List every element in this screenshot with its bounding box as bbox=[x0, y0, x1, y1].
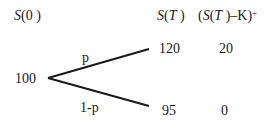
up-value: 120 bbox=[159, 41, 180, 57]
down-value: 95 bbox=[162, 103, 176, 119]
header-st: S(T ) bbox=[157, 8, 185, 24]
down-probability: 1-p bbox=[80, 100, 99, 116]
payoff-symbol: S bbox=[203, 8, 210, 23]
st-symbol: S bbox=[157, 8, 164, 23]
payoff-rest: )–K) bbox=[222, 8, 252, 23]
root-value: 100 bbox=[15, 71, 36, 87]
up-payoff: 20 bbox=[219, 41, 233, 57]
up-probability: p bbox=[82, 50, 89, 66]
down-payoff: 0 bbox=[221, 103, 228, 119]
st-paren-close: ) bbox=[176, 8, 184, 23]
payoff-arg-var: T bbox=[214, 8, 222, 23]
header-payoff: (S(T )–K)+ bbox=[198, 8, 257, 24]
payoff-plus-superscript: + bbox=[252, 8, 257, 18]
s0-symbol: S bbox=[14, 8, 21, 23]
up-branch bbox=[48, 49, 149, 78]
s0-arg: (0 ) bbox=[21, 8, 41, 23]
header-s0: S(0 ) bbox=[14, 8, 41, 24]
